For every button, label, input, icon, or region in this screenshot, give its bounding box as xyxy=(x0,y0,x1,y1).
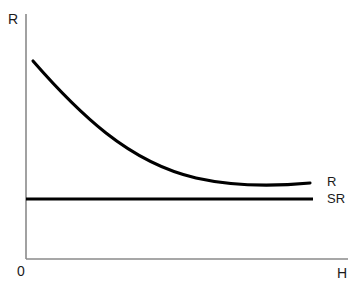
series-label-r: R xyxy=(327,175,337,188)
plot-area xyxy=(0,0,356,289)
y-axis-label: R xyxy=(8,12,18,26)
series-label-sr: SR xyxy=(327,192,345,205)
x-axis-label: H xyxy=(337,266,347,280)
chart-figure: R H 0 R SR xyxy=(0,0,356,289)
series-curve-r xyxy=(33,61,310,185)
origin-label: 0 xyxy=(17,264,25,278)
